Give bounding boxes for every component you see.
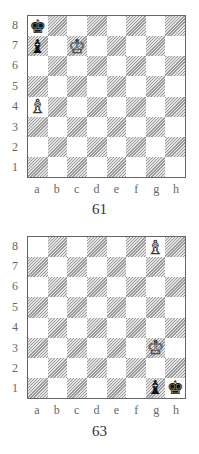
rank-label: 3: [8, 338, 22, 358]
rank-label: 4: [8, 318, 22, 338]
square-c3: [67, 338, 87, 358]
rank-label: 5: [8, 297, 22, 317]
file-label: a: [27, 403, 47, 418]
square-d1: [87, 378, 107, 398]
square-c5: [67, 297, 87, 317]
black-bishop-icon: ♝: [147, 378, 164, 397]
square-c8: [67, 237, 87, 257]
square-h4: [165, 318, 185, 338]
square-g4: [146, 318, 166, 338]
square-f2: [126, 358, 146, 378]
diagram-caption: 63: [0, 423, 199, 440]
square-b6: [48, 277, 68, 297]
square-a4: [28, 318, 48, 338]
square-g5: [146, 297, 166, 317]
square-b7: [48, 257, 68, 277]
square-d8: [87, 237, 107, 257]
white-king-icon: ♔: [147, 338, 164, 357]
square-a1: [28, 378, 48, 398]
file-label: d: [87, 403, 107, 418]
square-a3: [28, 338, 48, 358]
file-label: e: [107, 403, 127, 418]
black-king-icon: ♚: [167, 378, 184, 397]
square-d4: [87, 318, 107, 338]
file-label: b: [47, 403, 67, 418]
square-h2: [165, 358, 185, 378]
white-bishop-icon: ♗: [147, 238, 164, 257]
square-h6: [165, 277, 185, 297]
square-b1: [48, 378, 68, 398]
square-e7: [107, 257, 127, 277]
square-b2: [48, 358, 68, 378]
square-e2: [107, 358, 127, 378]
square-b8: [48, 237, 68, 257]
square-h5: [165, 297, 185, 317]
square-b5: [48, 297, 68, 317]
file-label: h: [166, 403, 186, 418]
square-d2: [87, 358, 107, 378]
square-f5: [126, 297, 146, 317]
square-d7: [87, 257, 107, 277]
square-e3: [107, 338, 127, 358]
square-g3: ♔: [146, 338, 166, 358]
square-g8: ♗: [146, 237, 166, 257]
chessboard: ♗♔♝♚: [27, 236, 186, 399]
file-label: g: [146, 403, 166, 418]
square-a5: [28, 297, 48, 317]
square-c4: [67, 318, 87, 338]
rank-label: 2: [8, 358, 22, 378]
square-f1: [126, 378, 146, 398]
diagram-63: 8 7 6 5 4 3 2 1 ♗♔♝♚ a b c d e f g h 63: [0, 0, 199, 454]
rank-label: 7: [8, 256, 22, 276]
square-g6: [146, 277, 166, 297]
rank-label: 1: [8, 379, 22, 399]
square-f7: [126, 257, 146, 277]
square-e4: [107, 318, 127, 338]
rank-label: 6: [8, 277, 22, 297]
file-labels: a b c d e f g h: [27, 403, 186, 418]
square-a2: [28, 358, 48, 378]
rank-labels: 8 7 6 5 4 3 2 1: [8, 236, 22, 399]
square-b4: [48, 318, 68, 338]
square-b3: [48, 338, 68, 358]
rank-label: 8: [8, 236, 22, 256]
square-f4: [126, 318, 146, 338]
square-e8: [107, 237, 127, 257]
square-g1: ♝: [146, 378, 166, 398]
square-e1: [107, 378, 127, 398]
square-d6: [87, 277, 107, 297]
square-d3: [87, 338, 107, 358]
square-a8: [28, 237, 48, 257]
square-e6: [107, 277, 127, 297]
square-f8: [126, 237, 146, 257]
square-d5: [87, 297, 107, 317]
square-f3: [126, 338, 146, 358]
square-h3: [165, 338, 185, 358]
square-g7: [146, 257, 166, 277]
square-h1: ♚: [165, 378, 185, 398]
square-h8: [165, 237, 185, 257]
square-c2: [67, 358, 87, 378]
square-e5: [107, 297, 127, 317]
square-f6: [126, 277, 146, 297]
file-label: c: [67, 403, 87, 418]
square-c6: [67, 277, 87, 297]
square-h7: [165, 257, 185, 277]
square-a7: [28, 257, 48, 277]
square-a6: [28, 277, 48, 297]
file-label: f: [126, 403, 146, 418]
square-g2: [146, 358, 166, 378]
square-c7: [67, 257, 87, 277]
square-c1: [67, 378, 87, 398]
